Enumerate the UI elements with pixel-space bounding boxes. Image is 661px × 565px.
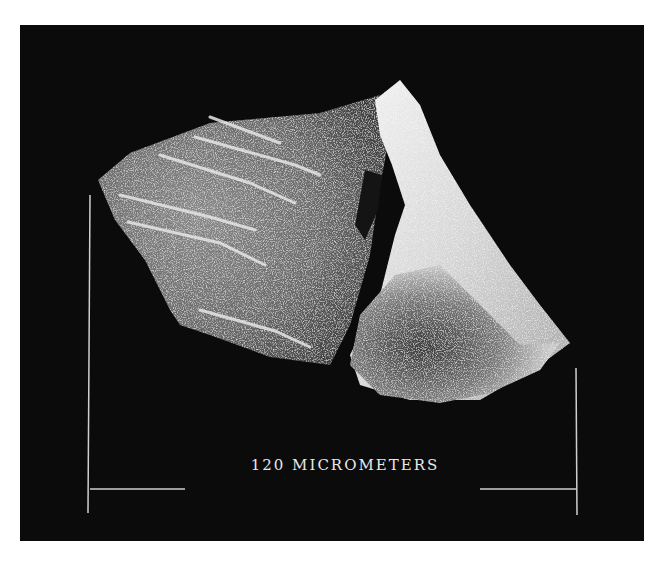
scale-bar-label: 120 MICROMETERS (190, 456, 500, 474)
micrograph-panel: 120 MICROMETERS (20, 25, 644, 541)
